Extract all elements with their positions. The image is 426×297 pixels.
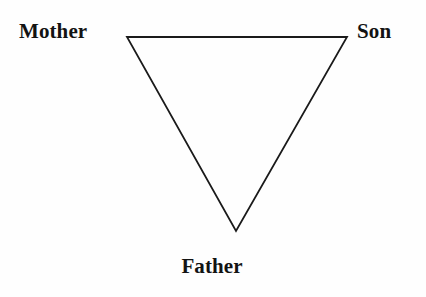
vertex-label-mother: Mother [19,21,87,42]
triangle-outline [127,37,347,231]
diagram-canvas: Mother Son Father [0,0,426,297]
kinship-triangle-graphic [0,0,426,297]
vertex-label-father: Father [0,256,425,277]
vertex-label-son: Son [357,21,391,42]
